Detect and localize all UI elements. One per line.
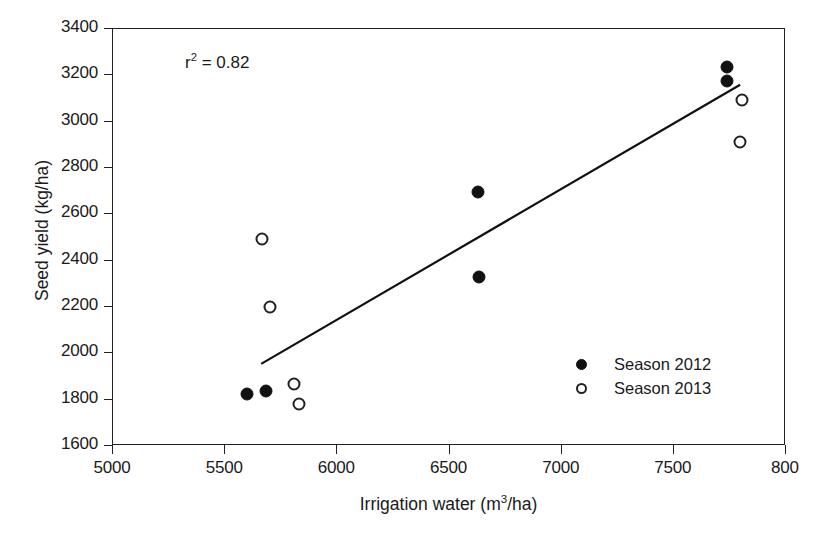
x-axis-tick-label: 6000 (296, 458, 376, 478)
y-axis-tick-label: 2600 (61, 202, 98, 222)
y-axis-tick-label: 1600 (61, 434, 98, 454)
x-axis-tick (336, 445, 337, 454)
y-axis-tick-label: 3400 (61, 17, 98, 37)
y-axis-tick (104, 213, 113, 214)
x-axis-tick (561, 445, 562, 454)
y-axis-tick (104, 167, 113, 168)
y-axis-tick-label: 2400 (61, 249, 98, 269)
y-axis-tick-label: 2800 (61, 156, 98, 176)
chart-legend: Season 2012Season 2013 (576, 352, 711, 400)
scatter-plot-figure: 1600180020002200240026002800300032003400… (0, 0, 815, 537)
x-axis-tick-label: 7500 (633, 458, 713, 478)
filled-circle-icon (576, 359, 612, 370)
y-axis-tick (104, 306, 113, 307)
x-axis-tick (785, 445, 786, 454)
r-squared-value: = 0.82 (197, 53, 249, 72)
legend-item-label: Season 2012 (614, 352, 711, 376)
y-axis-tick-label: 1800 (61, 388, 98, 408)
legend-marker-glyph (576, 383, 587, 394)
x-axis-title-main: Irrigation water (m (360, 494, 501, 514)
y-axis-tick (104, 260, 113, 261)
x-axis-tick (112, 445, 113, 454)
y-axis-tick (104, 399, 113, 400)
x-axis-tick-label: 5500 (184, 458, 264, 478)
x-axis-tick (673, 445, 674, 454)
legend-item: Season 2012 (576, 352, 711, 376)
y-axis-tick-label: 3000 (61, 110, 98, 130)
y-axis-title: Seed yield (kg/ha) (32, 101, 53, 361)
x-axis-title: Irrigation water (m3/ha) (112, 494, 785, 515)
y-axis-tick-label: 2000 (61, 341, 98, 361)
y-axis-tick-label: 2200 (61, 295, 98, 315)
legend-item-label: Season 2013 (614, 376, 711, 400)
legend-item: Season 2013 (576, 376, 711, 400)
y-axis-tick-label: 3200 (61, 63, 98, 83)
x-axis-tick-label: 5000 (72, 458, 152, 478)
y-axis-tick (104, 121, 113, 122)
x-axis-tick (449, 445, 450, 454)
x-axis-tick-label: 6500 (409, 458, 489, 478)
r-squared-annotation: r2 = 0.82 (185, 53, 249, 73)
x-axis-title-tail: /ha) (507, 494, 537, 514)
open-circle-icon (576, 383, 612, 394)
y-axis-tick (104, 28, 113, 29)
legend-marker-glyph (576, 359, 587, 370)
y-axis-tick (104, 352, 113, 353)
x-axis-tick (224, 445, 225, 454)
x-axis-tick-label: 7000 (521, 458, 601, 478)
y-axis-tick (104, 74, 113, 75)
x-axis-tick-label: 800 (745, 458, 815, 478)
